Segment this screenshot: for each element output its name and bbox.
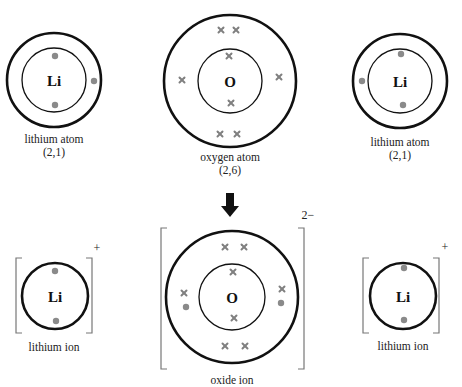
atom-name-label: oxygen atom xyxy=(200,151,260,164)
ionic-bonding-diagram: Li lithium atom (2,1) O oxygen atom (2,6… xyxy=(0,0,462,387)
electron-dot xyxy=(91,78,97,84)
reaction-arrow-down-icon xyxy=(221,193,239,217)
left-bracket xyxy=(363,258,369,333)
electron-dot xyxy=(359,78,365,84)
electron-cross xyxy=(235,132,240,137)
atom-name-label: lithium atom xyxy=(370,136,429,148)
electron-cross xyxy=(223,344,228,349)
ion-name-label: lithium ion xyxy=(378,340,429,352)
electron-cross xyxy=(280,287,285,292)
element-symbol: Li xyxy=(393,74,407,90)
electron-cross xyxy=(227,54,232,59)
lithium-ion-right: Li + lithium ion xyxy=(363,240,449,352)
ion-charge: + xyxy=(94,241,101,255)
lithium-atom-right: Li lithium atom (2,1) xyxy=(353,34,447,162)
oxide-ion: O 2− oxide ion xyxy=(161,208,315,386)
electron-dot xyxy=(398,51,404,57)
ion-charge: 2− xyxy=(302,208,315,222)
lithium-atom-left: Li lithium atom (2,1) xyxy=(7,33,101,159)
lithium-ion-left: Li + lithium ion xyxy=(16,241,101,353)
element-symbol: O xyxy=(226,290,238,306)
atom-name-label: lithium atom xyxy=(24,133,83,145)
electron-dot xyxy=(52,268,58,274)
ion-name-label: oxide ion xyxy=(210,374,253,386)
electron-dot xyxy=(401,265,407,271)
electron-cross xyxy=(223,245,228,250)
ion-charge: + xyxy=(442,240,449,254)
electron-config-label: (2,1) xyxy=(389,149,411,162)
gained-electron-dot xyxy=(183,304,189,310)
electron-dot xyxy=(400,102,406,108)
electron-cross xyxy=(277,75,282,80)
element-symbol: Li xyxy=(48,289,62,305)
electron-cross xyxy=(219,28,224,33)
electron-dot xyxy=(52,102,58,108)
electron-cross xyxy=(229,101,234,106)
electron-cross xyxy=(231,270,236,275)
gained-electron-dot xyxy=(278,300,284,306)
element-symbol: Li xyxy=(47,73,61,89)
element-symbol: O xyxy=(224,74,236,90)
electron-dot xyxy=(401,317,407,323)
electron-cross xyxy=(234,28,239,33)
element-symbol: Li xyxy=(396,289,410,305)
electron-cross xyxy=(180,78,185,83)
electron-config-label: (2,1) xyxy=(43,146,65,159)
oxygen-atom: O oxygen atom (2,6) xyxy=(164,15,296,177)
electron-cross xyxy=(232,316,237,321)
electron-dot xyxy=(52,53,58,59)
electron-dot xyxy=(53,318,59,324)
electron-cross xyxy=(218,132,223,137)
electron-cross xyxy=(182,291,187,296)
ion-name-label: lithium ion xyxy=(29,341,80,353)
electron-config-label: (2,6) xyxy=(219,164,241,177)
electron-cross xyxy=(243,344,248,349)
electron-cross xyxy=(242,245,247,250)
